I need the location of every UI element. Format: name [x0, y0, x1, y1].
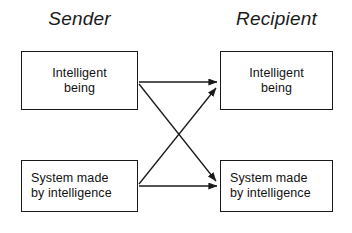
arrow-system-to-intelligent	[139, 88, 216, 184]
node-label-line2: by intelligence	[22, 186, 112, 201]
arrow-intelligent-to-system	[139, 84, 216, 181]
node-recipient-system-made-by-intelligence: System made by intelligence	[220, 160, 333, 212]
node-label-line1: System made	[22, 171, 109, 186]
node-label-line1: System made	[221, 171, 308, 186]
communication-diagram: Sender Recipient Intelligent being Syste…	[0, 0, 352, 233]
node-label-line2: being	[64, 81, 95, 96]
node-label-line1: Intelligent	[249, 66, 304, 81]
node-recipient-intelligent-being: Intelligent being	[220, 51, 333, 110]
node-label-line1: Intelligent	[52, 66, 107, 81]
node-sender-system-made-by-intelligence: System made by intelligence	[21, 160, 138, 212]
node-label-line2: by intelligence	[221, 186, 311, 201]
node-label-line2: being	[261, 81, 292, 96]
node-sender-intelligent-being: Intelligent being	[21, 51, 138, 110]
